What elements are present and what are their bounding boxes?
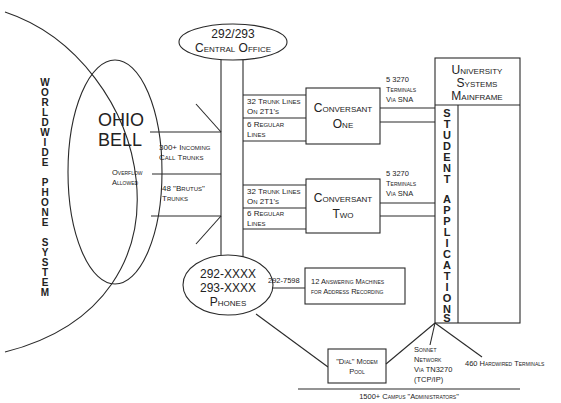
- svg-text:S: S: [443, 312, 450, 324]
- campus-label: 1500+ Campus "Administrators": [359, 392, 459, 401]
- answering-machines-box: [305, 268, 405, 304]
- c2-trunk-label-2: On 2T1's: [247, 197, 279, 206]
- worldwide-label: W O R L D W I D E P H O N E S Y S T E M: [40, 77, 50, 298]
- sonnet-label-2: Network: [414, 355, 442, 364]
- phones-label-3: Phones: [210, 295, 246, 309]
- overflow-label-1: Overflow: [112, 168, 143, 177]
- c1-terminals-label-3: Via SNA: [386, 95, 413, 104]
- c2-terminals-label-3: Via SNA: [386, 189, 413, 198]
- brutus-trunks-label-1: 48 "Brutus": [162, 184, 205, 193]
- c1-regular-label-2: Lines: [247, 130, 265, 139]
- answering-label-1: 12 Answering Machines: [311, 277, 385, 286]
- svg-text:E: E: [42, 157, 49, 168]
- answering-number: 292-7598: [268, 276, 300, 285]
- ohio-bell-label-1: OHIO: [98, 110, 144, 130]
- conversant-one-label-1: Conversant: [314, 101, 373, 115]
- c2-terminals-label-1: 5 3270: [386, 169, 409, 178]
- c1-terminals-label-2: Terminals: [386, 85, 417, 94]
- phones-modem-link: [256, 314, 328, 367]
- svg-text:E: E: [42, 217, 49, 228]
- mainframe-label-3: Mainframe: [451, 89, 502, 103]
- c2-terminals-label-2: Terminals: [386, 179, 417, 188]
- c2-trunk-label-1: 32 Trunk Lines: [247, 187, 301, 196]
- phones-label-1: 292-XXXX: [200, 267, 256, 281]
- svg-text:T: T: [444, 173, 451, 185]
- mainframe-label-2: Systems: [457, 76, 498, 90]
- hardwired-label: 460 Hardwired Terminals: [465, 359, 545, 368]
- modem-pool-box: [328, 349, 386, 383]
- phone-system-diagram: W O R L D W I D E P H O N E S Y S T E M …: [0, 0, 561, 403]
- modem-pool-label-2: Pool: [349, 367, 365, 376]
- conversant-two-label-1: Conversant: [314, 191, 373, 205]
- modem-pool-label-1: "Dial" Modem: [336, 357, 378, 366]
- sonnet-label-4: (TCP/IP): [414, 375, 444, 384]
- conversant-one-box: [306, 88, 380, 144]
- sonnet-label-1: Sonnet: [414, 345, 437, 354]
- c2-regular-label-2: Lines: [247, 219, 265, 228]
- incoming-trunks-label-1: 300+ Incoming: [159, 143, 211, 152]
- conversant-one-label-2: One: [333, 117, 353, 131]
- central-office-label-2: Central Office: [195, 41, 271, 55]
- trunk-arrow: [150, 104, 221, 244]
- conversant-two-box: [306, 179, 380, 233]
- ohio-bell-label-2: BELL: [98, 130, 142, 150]
- c1-terminals-label-1: 5 3270: [386, 75, 409, 84]
- conversant-two-label-2: Two: [332, 207, 353, 221]
- phones-label-2: 293-XXXX: [200, 281, 256, 295]
- c2-regular-label-1: 6 Regular: [247, 209, 285, 218]
- c1-trunk-label-2: On 2T1's: [247, 107, 279, 116]
- answering-label-2: for Address Recording: [311, 287, 384, 296]
- brutus-trunks-label-2: Trunks: [162, 194, 188, 203]
- sonnet-label-3: Via TN3270: [414, 365, 452, 374]
- c1-regular-label-1: 6 Regular: [247, 120, 285, 129]
- svg-text:M: M: [41, 287, 49, 298]
- student-applications-label: S T U D E N T A P P L I C A T I O N S: [443, 107, 452, 324]
- central-office-label-1: 292/293: [211, 27, 255, 41]
- incoming-trunks-label-2: Call Trunks: [159, 153, 203, 162]
- c1-trunk-label-1: 32 Trunk Lines: [247, 97, 301, 106]
- mainframe-label-1: University: [452, 63, 504, 77]
- overflow-label-2: Allowed: [112, 178, 139, 187]
